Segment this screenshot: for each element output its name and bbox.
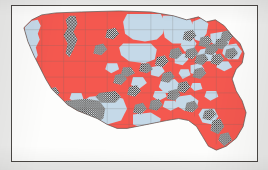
map-frame xyxy=(11,5,258,162)
figure-plate xyxy=(0,0,268,170)
us-choropleth-map xyxy=(12,6,257,161)
